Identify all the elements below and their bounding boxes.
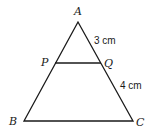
- vertex-label-c: C: [136, 116, 145, 129]
- triangle-abc: [24, 22, 133, 121]
- triangle-diagram: A P Q B C 3 cm 4 cm: [0, 0, 155, 134]
- length-label-aq: 3 cm: [94, 35, 116, 46]
- vertex-label-b: B: [8, 115, 17, 128]
- length-label-qc: 4 cm: [120, 80, 142, 91]
- vertex-label-a: A: [73, 5, 82, 18]
- vertex-label-p: P: [40, 56, 49, 69]
- vertex-label-q: Q: [104, 57, 113, 70]
